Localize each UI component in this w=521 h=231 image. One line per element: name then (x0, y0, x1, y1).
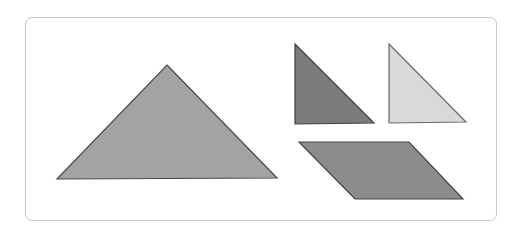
diagram-canvas (0, 0, 521, 231)
light-small-triangle-shape (389, 44, 466, 123)
large-triangle-shape (57, 65, 277, 179)
dark-small-triangle-shape (295, 44, 374, 124)
shapes-layer (0, 0, 521, 231)
parallelogram-shape (299, 142, 463, 199)
